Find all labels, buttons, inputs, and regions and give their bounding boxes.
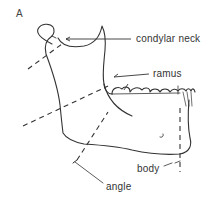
label-body: body bbox=[137, 163, 160, 175]
label-condylar-neck: condylar neck bbox=[136, 33, 200, 45]
mandible-outline bbox=[0, 0, 212, 209]
label-ramus: ramus bbox=[153, 68, 182, 80]
label-angle: angle bbox=[106, 181, 131, 193]
mandible-diagram: A condylar neck ramus body angle bbox=[0, 0, 212, 209]
panel-label: A bbox=[16, 8, 23, 19]
